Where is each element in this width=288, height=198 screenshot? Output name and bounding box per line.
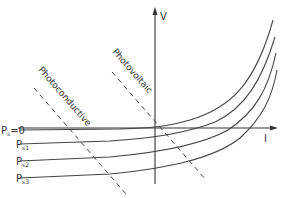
curve-label-ps3: Ps3 (16, 173, 29, 185)
photoconductive-label: Photoconductive (36, 65, 93, 129)
axes: V I (18, 7, 278, 184)
curve-labels: Ps=0 Ps1 Ps2 Ps3 (1, 125, 29, 185)
curve-label-ps1: Ps1 (16, 139, 29, 151)
iv-characteristic-diagram: V I Ps=0 Ps1 Ps2 Ps3 Photoconductive Pho… (0, 0, 288, 198)
region-labels: Photoconductive Photovoltaic (36, 47, 154, 129)
curve-label-ps0: Ps=0 (1, 125, 25, 137)
curve-label-ps2: Ps2 (16, 156, 29, 168)
iv-curves (20, 20, 277, 178)
vertical-axis-arrow-icon (153, 7, 158, 15)
vertical-axis-label: V (160, 11, 167, 22)
horizontal-axis-arrow-icon (270, 126, 278, 131)
horizontal-axis-label: I (264, 133, 267, 144)
photovoltaic-label: Photovoltaic (110, 47, 154, 95)
curve-ps0 (20, 20, 273, 130)
